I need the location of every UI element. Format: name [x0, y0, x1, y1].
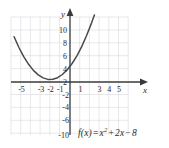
x-tick-neg5: -5: [18, 85, 25, 94]
x-tick-1: 1: [79, 85, 83, 94]
x-tick-neg1: -1: [57, 85, 64, 94]
x-tick-5: 5: [117, 85, 121, 94]
x-tick-3: 3: [98, 85, 102, 94]
figure-canvas: y x 10 8 6 4 2 -2 -4 -6 -10 -5 -3 -2 -1 …: [0, 0, 169, 148]
x-axis-label: x: [142, 85, 147, 95]
x-tick-neg2: -2: [47, 85, 54, 94]
y-tick-4: 4: [63, 65, 67, 74]
equation-term2: 2x: [115, 128, 124, 138]
equation-term3: 8: [132, 128, 137, 138]
x-tick-neg3: -3: [38, 85, 45, 94]
y-tick-neg4: -4: [62, 103, 69, 112]
y-tick-10: 10: [59, 26, 67, 35]
y-axis-label: y: [60, 9, 65, 19]
y-tick-8: 8: [63, 39, 67, 48]
y-tick-neg10: -10: [58, 131, 69, 140]
y-tick-neg6: -6: [62, 116, 69, 125]
x-tick-4: 4: [107, 85, 111, 94]
graph-svg: y x 10 8 6 4 2 -2 -4 -6 -10 -5 -3 -2 -1 …: [0, 0, 169, 148]
equation-annotation: f(x)=x2+2x−8: [78, 128, 137, 138]
equation-minus: −: [124, 128, 132, 138]
y-tick-6: 6: [63, 52, 67, 61]
parabola-curve: [14, 15, 94, 79]
equation-equals: =: [92, 128, 100, 138]
equation-plus: +: [107, 128, 115, 138]
equation-fn: f(x): [78, 128, 92, 138]
y-tick-2: 2: [63, 78, 67, 87]
